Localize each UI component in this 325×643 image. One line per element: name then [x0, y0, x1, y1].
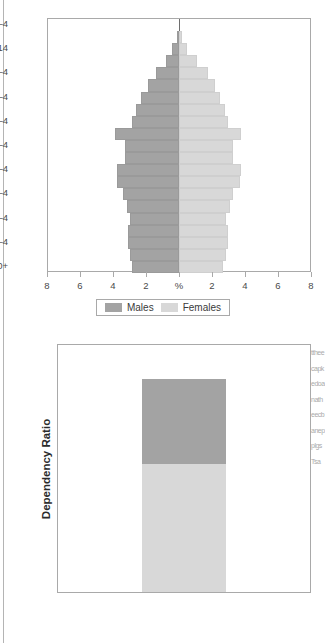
- pyramid-x-tick-label: 2: [132, 280, 160, 291]
- pyramid-age-row: [48, 152, 310, 164]
- pyramid-y-tick-label: 90–4: [0, 236, 8, 247]
- bar-segment-gerontic: [142, 379, 226, 463]
- pyramid-age-row: [48, 225, 310, 237]
- pyramid-bar-males: [117, 176, 179, 188]
- population-pyramid-chart: 100+90–480–470–460–450–440–430–420–410–1…: [0, 0, 325, 320]
- pyramid-plot-area: [47, 18, 311, 272]
- pyramid-bar-females: [179, 249, 226, 261]
- pyramid-bar-females: [179, 43, 187, 55]
- pyramid-age-row: [48, 55, 310, 67]
- pyramid-y-tick-label: 30–4: [0, 91, 8, 102]
- pyramid-bar-males: [148, 79, 179, 91]
- dependency-y-axis-title: Dependency Ratio: [40, 418, 52, 518]
- pyramid-y-tick-label: 20–4: [0, 66, 8, 77]
- pyramid-bar-males: [117, 164, 179, 176]
- pyramid-x-tick-mark: [311, 272, 312, 277]
- pyramid-bar-males: [115, 128, 179, 140]
- pyramid-bar-males: [128, 225, 179, 237]
- legend-label-males: Males: [127, 302, 154, 313]
- pyramid-age-row: [48, 140, 310, 152]
- pyramid-y-tick-label: 10–14: [0, 42, 8, 53]
- pyramid-bar-males: [156, 67, 179, 79]
- pyramid-bar-females: [179, 104, 225, 116]
- pyramid-age-row: [48, 92, 310, 104]
- pyramid-bar-females: [179, 67, 208, 79]
- figure-root: ttheecapkedoanatheecbanepplgsTsa 100+90–…: [0, 0, 325, 643]
- pyramid-age-row: [48, 176, 310, 188]
- pyramid-bar-males: [125, 152, 179, 164]
- pyramid-age-row: [48, 79, 310, 91]
- pyramid-bar-females: [179, 237, 228, 249]
- pyramid-bar-females: [179, 188, 233, 200]
- pyramid-x-tick-mark: [113, 272, 114, 277]
- pyramid-age-row: [48, 43, 310, 55]
- pyramid-x-tick-label: 6: [264, 280, 292, 291]
- pyramid-bar-females: [179, 92, 220, 104]
- pyramid-y-tick-label: 0–4: [0, 18, 8, 29]
- dependency-ratio-chart: Dependency Ratio 80706050403020100 Neont…: [0, 320, 325, 643]
- pyramid-age-row: [48, 19, 310, 31]
- pyramid-age-row: [48, 31, 310, 43]
- pyramid-age-row: [48, 249, 310, 261]
- pyramid-bar-males: [141, 92, 179, 104]
- pyramid-age-row: [48, 128, 310, 140]
- pyramid-age-row: [48, 188, 310, 200]
- pyramid-bar-males: [128, 237, 179, 249]
- pyramid-age-row: [48, 237, 310, 249]
- pyramid-bar-males: [132, 116, 179, 128]
- pyramid-x-tick-mark: [47, 272, 48, 277]
- legend-swatch-females: [161, 303, 178, 312]
- pyramid-x-tick-label: 8: [33, 280, 61, 291]
- pyramid-bar-males: [166, 55, 179, 67]
- pyramid-x-tick-label: 6: [66, 280, 94, 291]
- pyramid-y-tick-label: 40–4: [0, 115, 8, 126]
- pyramid-x-tick-label: 8: [297, 280, 325, 291]
- pyramid-bar-males: [132, 261, 179, 273]
- pyramid-bar-males: [123, 188, 179, 200]
- pyramid-bar-females: [179, 176, 240, 188]
- pyramid-x-tick-label: 4: [231, 280, 259, 291]
- pyramid-y-tick-label: 50–4: [0, 139, 8, 150]
- pyramid-age-row: [48, 67, 310, 79]
- pyramid-bar-females: [179, 31, 182, 43]
- pyramid-bar-females: [179, 128, 241, 140]
- pyramid-age-row: [48, 116, 310, 128]
- pyramid-legend: Males Females: [96, 299, 230, 316]
- pyramid-bar-females: [179, 261, 223, 273]
- pyramid-x-tick-mark: [80, 272, 81, 277]
- pyramid-bar-males: [136, 104, 179, 116]
- pyramid-bar-males: [127, 200, 179, 212]
- pyramid-bar-females: [179, 164, 241, 176]
- pyramid-age-row: [48, 164, 310, 176]
- pyramid-bar-females: [179, 152, 233, 164]
- legend-entry-females: Females: [161, 302, 221, 313]
- pyramid-x-tick-mark: [179, 272, 180, 277]
- pyramid-age-row: [48, 213, 310, 225]
- pyramid-bar-females: [179, 200, 230, 212]
- pyramid-y-tick-label: 100+: [0, 260, 8, 271]
- pyramid-age-row: [48, 200, 310, 212]
- pyramid-bar-females: [179, 225, 228, 237]
- pyramid-bar-males: [130, 213, 179, 225]
- legend-swatch-males: [105, 303, 122, 312]
- pyramid-bar-males: [130, 249, 179, 261]
- pyramid-bar-females: [179, 79, 215, 91]
- pyramid-y-tick-label: 60–4: [0, 163, 8, 174]
- pyramid-age-row: [48, 104, 310, 116]
- pyramid-bar-females: [179, 213, 226, 225]
- bar-segment-neontic: [142, 464, 226, 592]
- pyramid-bar-females: [179, 55, 197, 67]
- pyramid-x-tick-label: 4: [99, 280, 127, 291]
- pyramid-bar-females: [179, 116, 228, 128]
- pyramid-x-tick-mark: [212, 272, 213, 277]
- pyramid-x-tick-mark: [278, 272, 279, 277]
- pyramid-y-tick-label: 70–4: [0, 187, 8, 198]
- dependency-plot-area: Dependency Ratio: [57, 344, 311, 593]
- legend-entry-males: Males: [105, 302, 154, 313]
- pyramid-x-tick-mark: [146, 272, 147, 277]
- pyramid-x-tick-label: 2: [198, 280, 226, 291]
- pyramid-bar-males: [125, 140, 179, 152]
- pyramid-y-tick-label: 80–4: [0, 212, 8, 223]
- pyramid-x-tick-label: %: [165, 280, 193, 291]
- legend-label-females: Females: [183, 302, 221, 313]
